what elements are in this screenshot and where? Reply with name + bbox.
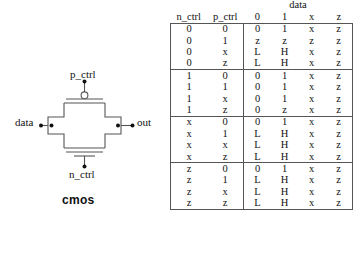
header-col-data-x: x	[298, 11, 325, 23]
header-spacer-nctrl	[171, 0, 208, 11]
cell-out-0: L	[244, 175, 272, 186]
cell-out-x: x	[298, 23, 325, 35]
cell-out-1: 1	[271, 70, 298, 82]
figure-label-n-ctrl: n_ctrl	[69, 168, 95, 180]
cell-out-x: x	[298, 93, 325, 104]
cell-p-ctrl: x	[207, 47, 244, 58]
cell-out-z: z	[325, 175, 353, 186]
table-row: 1101xz	[171, 82, 353, 93]
figure-caption-cmos: cmos	[62, 193, 95, 207]
cell-p-ctrl: 0	[207, 116, 244, 128]
cell-out-x: x	[298, 47, 325, 58]
cell-out-1: H	[271, 47, 298, 58]
table-row: 1x01xz	[171, 93, 353, 104]
cell-out-z: z	[325, 23, 353, 35]
cell-out-z: z	[325, 70, 353, 82]
cell-out-1: H	[271, 140, 298, 151]
cell-n-ctrl: 1	[171, 105, 208, 117]
cell-p-ctrl: z	[207, 105, 244, 117]
cell-out-z: z	[325, 105, 353, 117]
cell-out-0: L	[244, 128, 272, 139]
table-row: 1z0zxz	[171, 105, 353, 117]
cell-p-ctrl: 1	[207, 175, 244, 186]
cell-out-1: H	[271, 186, 298, 197]
cell-n-ctrl: x	[171, 140, 208, 151]
cell-out-z: z	[325, 58, 353, 70]
cell-out-0: 0	[244, 70, 272, 82]
cell-n-ctrl: x	[171, 116, 208, 128]
cell-out-z: z	[325, 128, 353, 139]
cell-n-ctrl: 0	[171, 47, 208, 58]
table-row: 0xLHxz	[171, 47, 353, 58]
header-col-data-z: z	[325, 11, 353, 23]
cell-out-z: z	[325, 93, 353, 104]
cell-out-x: x	[298, 105, 325, 117]
cell-out-0: L	[244, 140, 272, 151]
cell-out-0: 0	[244, 93, 272, 104]
header-col-data-1: 1	[271, 11, 298, 23]
table-row: 01zzzz	[171, 35, 353, 46]
cmos-symbol-figure: p_ctrl n_ctrl data out cmos	[0, 0, 168, 256]
cell-out-1: z	[271, 35, 298, 46]
cell-p-ctrl: 1	[207, 128, 244, 139]
cell-out-1: 1	[271, 163, 298, 175]
cell-out-z: z	[325, 163, 353, 175]
header-col-n-ctrl: n_ctrl	[171, 11, 208, 23]
cell-out-x: z	[298, 35, 325, 46]
table-row: 0zLHxz	[171, 58, 353, 70]
cell-out-1: 1	[271, 116, 298, 128]
figure-label-p-ctrl: p_ctrl	[70, 68, 96, 80]
cell-n-ctrl: 0	[171, 23, 208, 35]
cell-p-ctrl: x	[207, 186, 244, 197]
cell-out-z: z	[325, 82, 353, 93]
cell-out-x: x	[298, 151, 325, 163]
cell-p-ctrl: z	[207, 151, 244, 163]
cell-out-x: x	[298, 163, 325, 175]
cell-out-0: L	[244, 198, 272, 210]
cell-p-ctrl: z	[207, 198, 244, 210]
cell-out-z: z	[325, 35, 353, 46]
cell-out-0: 0	[244, 23, 272, 35]
cell-p-ctrl: 0	[207, 70, 244, 82]
table-row: x001xz	[171, 116, 353, 128]
cell-p-ctrl: x	[207, 93, 244, 104]
cell-n-ctrl: z	[171, 175, 208, 186]
cell-n-ctrl: 1	[171, 82, 208, 93]
cell-out-x: x	[298, 140, 325, 151]
cell-n-ctrl: x	[171, 128, 208, 139]
cell-out-1: H	[271, 175, 298, 186]
table-body: 0001xz01zzzz0xLHxz0zLHxz1001xz1101xz1x01…	[171, 23, 353, 209]
cell-out-z: z	[325, 116, 353, 128]
cell-out-x: x	[298, 128, 325, 139]
figure-label-out: out	[137, 116, 151, 128]
cell-out-0: 0	[244, 163, 272, 175]
cell-out-1: 1	[271, 23, 298, 35]
cell-out-0: 0	[244, 105, 272, 117]
table-row: 0001xz	[171, 23, 353, 35]
cell-out-0: L	[244, 186, 272, 197]
table-row: x1LHxz	[171, 128, 353, 139]
cell-n-ctrl: 1	[171, 70, 208, 82]
cell-out-x: x	[298, 116, 325, 128]
cell-p-ctrl: 1	[207, 35, 244, 46]
table-row: xzLHxz	[171, 151, 353, 163]
cell-out-0: L	[244, 151, 272, 163]
cell-out-0: z	[244, 35, 272, 46]
cell-n-ctrl: 0	[171, 58, 208, 70]
cell-n-ctrl: 0	[171, 35, 208, 46]
cell-out-0: 0	[244, 116, 272, 128]
cell-p-ctrl: x	[207, 140, 244, 151]
header-spacer-pctrl	[207, 0, 244, 11]
cell-p-ctrl: 0	[207, 23, 244, 35]
cell-n-ctrl: z	[171, 163, 208, 175]
cell-out-1: H	[271, 151, 298, 163]
cell-n-ctrl: x	[171, 151, 208, 163]
cell-n-ctrl: z	[171, 198, 208, 210]
header-col-p-ctrl: p_ctrl	[207, 11, 244, 23]
cell-out-z: z	[325, 151, 353, 163]
header-row-group: data	[171, 0, 353, 11]
cell-out-1: H	[271, 128, 298, 139]
table-row: zzLHxz	[171, 198, 353, 210]
header-col-data-0: 0	[244, 11, 272, 23]
cell-out-0: 0	[244, 82, 272, 93]
